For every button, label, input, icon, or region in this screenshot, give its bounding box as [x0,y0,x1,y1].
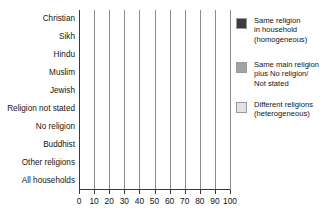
x-tick [200,190,201,194]
chart-legend: Same religionin household(homogeneous)Sa… [236,8,333,128]
x-tick [124,190,125,194]
x-tick-label: 90 [210,196,219,206]
category-label: No religion [0,122,75,131]
bar-row [79,175,230,186]
x-tick [139,190,140,194]
category-label: Other religions [0,158,75,167]
legend-label-line: in household [254,25,333,34]
legend-label-line: plus No religion/ [254,69,333,78]
x-tick-label: 40 [135,196,144,206]
stacked-bar-chart: ChristianSikhHinduMuslimJewishReligion n… [0,0,333,220]
category-label: Christian [0,14,75,23]
legend-swatch-icon [236,18,247,29]
bar-row [79,121,230,132]
legend-label-line: (heterogeneous) [254,109,333,118]
x-tick-label: 50 [150,196,159,206]
category-label: Religion not stated [0,104,75,113]
bar-row [79,103,230,114]
x-axis-ticks [79,190,230,195]
legend-swatch-icon [236,102,247,113]
legend-label: Different religions(heterogeneous) [254,100,333,119]
x-tick [215,190,216,194]
category-label: Hindu [0,50,75,59]
legend-label-line: (homogeneous) [254,35,333,44]
x-tick-label: 80 [195,196,204,206]
bar-row [79,31,230,42]
x-tick [230,190,231,194]
bar-row [79,157,230,168]
bar-row [79,139,230,150]
gridline [230,10,231,190]
bar-row [79,49,230,60]
x-tick-label: 20 [105,196,114,206]
y-axis-category-labels: ChristianSikhHinduMuslimJewishReligion n… [0,10,75,190]
bar-row [79,85,230,96]
category-label: Sikh [0,32,75,41]
legend-swatch-icon [236,62,247,73]
x-axis-tick-labels: 0102030405060708090100 [0,196,260,210]
legend-label-line: Same main religion [254,60,333,69]
x-tick-label: 0 [77,196,82,206]
x-tick-label: 70 [180,196,189,206]
x-tick-label: 60 [165,196,174,206]
x-tick [185,190,186,194]
legend-label: Same main religionplus No religion/Not s… [254,60,333,88]
category-label: Buddhist [0,140,75,149]
x-tick [109,190,110,194]
category-label: Muslim [0,68,75,77]
category-label: All households [0,176,75,185]
x-tick [170,190,171,194]
legend-label-line: Different religions [254,100,333,109]
plot-area [79,10,230,190]
bar-row [79,13,230,24]
x-tick [94,190,95,194]
legend-label: Same religionin household(homogeneous) [254,16,333,44]
x-tick [155,190,156,194]
x-tick [79,190,80,194]
x-tick-label: 30 [120,196,129,206]
bar-row [79,67,230,78]
legend-label-line: Not stated [254,79,333,88]
category-label: Jewish [0,86,75,95]
legend-label-line: Same religion [254,16,333,25]
x-tick-label: 10 [89,196,98,206]
y-axis-line [79,10,80,190]
bar-rows [79,10,230,190]
x-tick-label: 100 [223,196,237,206]
